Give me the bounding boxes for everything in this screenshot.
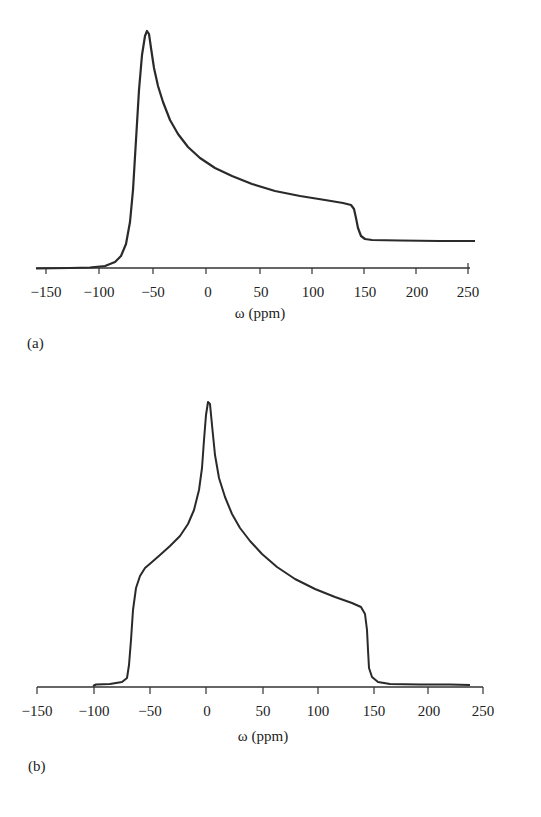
panel-label-a: (a) [27, 335, 44, 352]
x-tick-labels-b: −150 −100 −50 0 50 100 150 200 250 [22, 703, 495, 719]
tick-label: −150 [31, 284, 62, 300]
x-axis-label-b: ω (ppm) [238, 728, 288, 745]
figure: −150 −100 −50 0 50 100 150 200 250 ω (pp… [0, 0, 541, 817]
tick-label: 200 [418, 703, 441, 719]
x-tick-labels-a: −150 −100 −50 0 50 100 150 200 250 [31, 284, 480, 300]
spectrum-line-a [36, 31, 475, 269]
tick-label: −50 [138, 703, 161, 719]
tick-label: 0 [204, 284, 212, 300]
tick-label: 50 [254, 284, 269, 300]
tick-label: 250 [472, 703, 495, 719]
tick-label: 100 [302, 284, 325, 300]
tick-label: 100 [307, 703, 330, 719]
tick-label: −100 [84, 284, 115, 300]
tick-label: 150 [363, 703, 386, 719]
chart-b: −150 −100 −50 0 50 100 150 200 250 ω (pp… [22, 402, 495, 745]
spectrum-line-b [93, 402, 470, 686]
tick-label: 150 [354, 284, 377, 300]
tick-label: −100 [79, 703, 110, 719]
tick-label: −150 [22, 703, 53, 719]
tick-label: 200 [406, 284, 429, 300]
tick-label: 0 [203, 703, 211, 719]
x-axis-label-a: ω (ppm) [235, 305, 285, 322]
x-ticks-b [37, 687, 483, 694]
tick-label: 250 [457, 284, 480, 300]
chart-a: −150 −100 −50 0 50 100 150 200 250 ω (pp… [31, 31, 480, 322]
tick-label: 50 [256, 703, 271, 719]
panel-label-b: (b) [28, 758, 46, 775]
tick-label: −50 [141, 284, 164, 300]
